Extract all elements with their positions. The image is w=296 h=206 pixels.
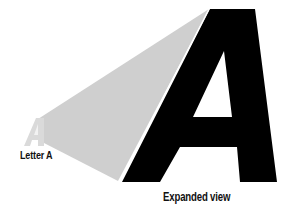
magnification-diagram	[0, 0, 296, 206]
small-letter-label: Letter A	[20, 149, 52, 161]
small-letter-a	[24, 118, 44, 146]
expanded-view-label: Expanded view	[163, 190, 230, 204]
